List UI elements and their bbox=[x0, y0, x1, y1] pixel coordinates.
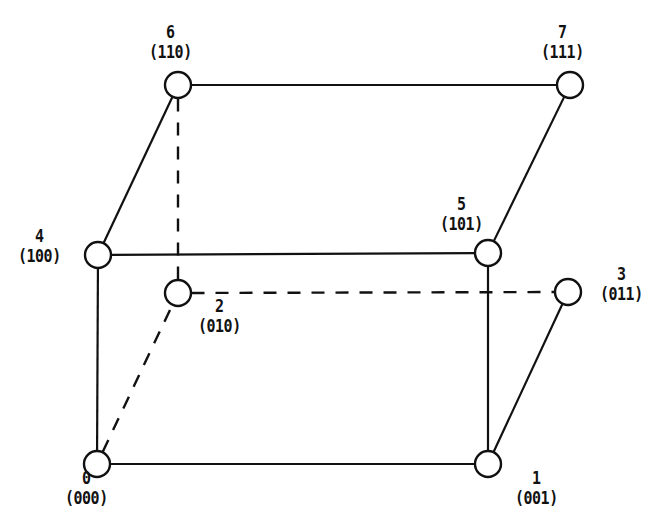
node-index-7: 7 bbox=[541, 24, 584, 41]
cube-edge-n0-n2 bbox=[103, 305, 172, 452]
node-layer bbox=[84, 72, 583, 477]
cube-graph-svg bbox=[0, 0, 664, 532]
node-label-2: 2(010) bbox=[198, 298, 241, 335]
node-index-1: 1 bbox=[515, 470, 558, 487]
node-index-0: 0 bbox=[65, 470, 108, 487]
node-label-5: 5(101) bbox=[440, 196, 483, 233]
node-label-7: 7(111) bbox=[541, 24, 584, 61]
cube-edge-n6-n4 bbox=[104, 97, 173, 243]
node-label-3: 3(011) bbox=[600, 266, 643, 303]
node-code-1: (001) bbox=[515, 490, 558, 507]
node-index-6: 6 bbox=[149, 24, 192, 41]
node-code-0: (000) bbox=[65, 490, 108, 507]
cube-edge-n7-n5 bbox=[494, 97, 564, 241]
node-label-6: 6(110) bbox=[149, 24, 192, 61]
node-label-4: 4(100) bbox=[18, 228, 61, 265]
cube-node-2 bbox=[165, 280, 191, 306]
node-code-5: (101) bbox=[440, 216, 483, 233]
cube-edge-n4-n0 bbox=[97, 268, 98, 450]
node-label-0: 0(000) bbox=[65, 470, 108, 507]
cube-edge-n1-n3 bbox=[494, 304, 563, 452]
node-code-6: (110) bbox=[149, 44, 192, 61]
node-index-3: 3 bbox=[600, 266, 643, 283]
node-code-2: (010) bbox=[198, 318, 241, 335]
hypercube-figure: 0(000)1(001)2(010)3(011)4(100)5(101)6(11… bbox=[0, 0, 664, 532]
cube-node-4 bbox=[85, 242, 111, 268]
cube-node-3 bbox=[555, 279, 581, 305]
cube-edge-n2-n3 bbox=[191, 292, 554, 293]
node-index-4: 4 bbox=[18, 228, 61, 245]
node-code-4: (100) bbox=[18, 248, 61, 265]
node-code-3: (011) bbox=[600, 286, 643, 303]
cube-node-5 bbox=[475, 240, 501, 266]
cube-node-7 bbox=[557, 72, 583, 98]
edge-layer bbox=[97, 85, 564, 464]
node-index-2: 2 bbox=[198, 298, 241, 315]
node-label-1: 1(001) bbox=[515, 470, 558, 507]
node-code-7: (111) bbox=[541, 44, 584, 61]
cube-node-6 bbox=[165, 72, 191, 98]
cube-node-1 bbox=[475, 451, 501, 477]
cube-edge-n4-n5 bbox=[111, 253, 474, 255]
node-index-5: 5 bbox=[440, 196, 483, 213]
